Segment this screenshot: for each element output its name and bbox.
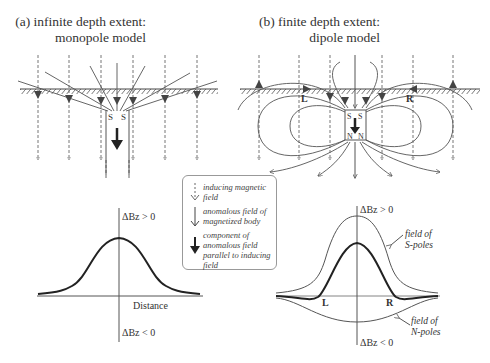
pole-label: N xyxy=(347,132,353,141)
panel-a-graph xyxy=(37,208,203,342)
panel-b-y-pos-label: ΔBz > 0 xyxy=(360,204,393,215)
s-poles-field-label: field of S-poles xyxy=(405,229,433,251)
pole-label: S xyxy=(358,112,362,121)
panel-a-monopole-sketch xyxy=(18,55,218,178)
panel-b-y-neg-label: ΔBz < 0 xyxy=(360,337,393,348)
graph-point-l: L xyxy=(322,297,329,308)
panel-a-y-neg-label: ΔBz < 0 xyxy=(122,327,155,338)
bold-triangle-arrow-icon xyxy=(188,236,202,266)
pole-label: S xyxy=(347,112,351,121)
graph-point-r: R xyxy=(386,297,394,308)
legend-box: inducing magnetic field anomalous field … xyxy=(182,175,277,270)
n-poles-field-label: field of N-poles xyxy=(411,316,441,338)
pole-label: N xyxy=(358,132,364,141)
dashed-arrow-icon xyxy=(188,182,202,202)
point-l-label: L xyxy=(301,93,308,104)
panel-a-x-label: Distance xyxy=(133,300,168,311)
pole-label: S xyxy=(108,112,113,122)
thin-arrow-icon xyxy=(188,206,202,228)
pole-label: S xyxy=(121,112,126,122)
panel-a-y-pos-label: ΔBz > 0 xyxy=(122,211,155,222)
point-r-label: R xyxy=(406,93,414,104)
